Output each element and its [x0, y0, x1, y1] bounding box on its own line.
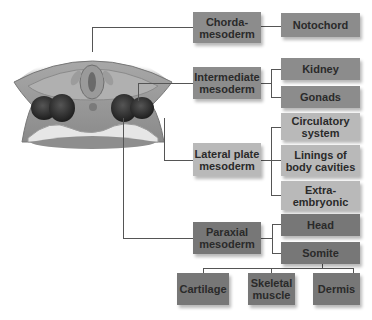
connector-intermediate-vertical	[138, 83, 139, 101]
extraembryonic-box: Extra- embryonic	[281, 181, 360, 210]
connector-intermediate-branch	[261, 83, 271, 84]
connector-paraxial	[123, 238, 193, 239]
lateral-plate-mesoderm-box: Lateral plate mesoderm	[193, 143, 261, 176]
connector-notochord	[261, 26, 281, 27]
connector-intermediate-split	[271, 69, 272, 97]
paraxial-mesoderm-box: Paraxial mesoderm	[193, 222, 261, 254]
connector-lateral-branch	[261, 160, 271, 161]
circulatory-system-box: Circulatory system	[281, 113, 360, 140]
connector-linings	[271, 160, 281, 161]
connector-lateral-vertical	[164, 118, 165, 160]
connector-intermediate	[138, 83, 193, 84]
connector-paraxial-branch	[261, 238, 272, 239]
chordamesoderm-box: Chorda- mesoderm	[193, 12, 261, 43]
connector-chorda-vertical	[92, 27, 93, 52]
notochord-box: Notochord	[281, 13, 360, 37]
connector-lateral-split	[271, 127, 272, 195]
connector-somite	[272, 253, 281, 254]
connector-gonads	[271, 97, 281, 98]
dermis-box: Dermis	[313, 273, 360, 305]
gonads-box: Gonads	[281, 86, 360, 108]
connector-head	[272, 224, 281, 225]
somite-box: Somite	[281, 242, 360, 264]
intermediate-mesoderm-box: Intermediate mesoderm	[193, 67, 261, 99]
kidney-box: Kidney	[281, 58, 360, 80]
connector-paraxial-vertical	[123, 118, 124, 238]
skeletal-muscle-box: Skeletal muscle	[248, 273, 295, 305]
connector-extraembryonic	[271, 195, 281, 196]
head-box: Head	[281, 214, 360, 236]
cartilage-box: Cartilage	[177, 273, 229, 305]
connector-kidney	[271, 69, 281, 70]
connector-paraxial-split	[272, 224, 273, 253]
linings-box: Linings of body cavities	[281, 145, 360, 176]
connector-somite-bar	[203, 268, 354, 269]
connector-circulatory	[271, 127, 281, 128]
connector-chorda	[92, 27, 193, 28]
connector-lateral	[164, 160, 193, 161]
